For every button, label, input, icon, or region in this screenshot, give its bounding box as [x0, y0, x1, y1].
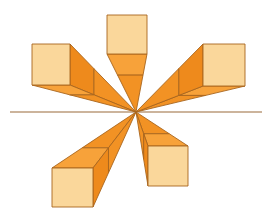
- cube-top-side: [107, 54, 147, 75]
- perspective-drawing: [0, 0, 276, 220]
- cube-upper-right-side: [179, 44, 203, 95]
- cube-lower-right-side: [144, 134, 188, 146]
- cube-lower-right-front: [148, 146, 188, 186]
- perspective-diagram: [0, 0, 276, 220]
- cube-upper-right-front: [203, 44, 245, 86]
- cube-top-front: [107, 15, 147, 54]
- cube-lower-left-front: [52, 168, 93, 207]
- cube-upper-left-front: [32, 44, 70, 85]
- cube-group: [32, 15, 245, 207]
